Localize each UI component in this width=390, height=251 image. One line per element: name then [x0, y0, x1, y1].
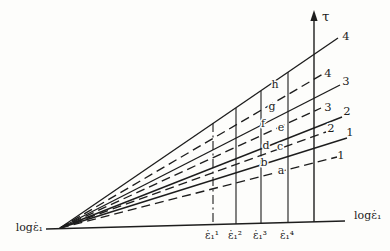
- x-axis: [46, 221, 345, 229]
- solid-line-1: [60, 138, 347, 228]
- dashed-line-1-label: 1: [337, 148, 344, 162]
- point-label-e: e: [278, 121, 285, 134]
- tau-axis-arrowhead-icon: [310, 10, 317, 21]
- solid-line-2-label: 2: [343, 104, 350, 118]
- diagram-canvas: ε̇₁¹ε̇₁²ε̇₁³ε̇₁⁴logε̇₁logε̇₁τ44332211hgf…: [0, 0, 390, 251]
- solid-line-1-label: 1: [346, 125, 353, 139]
- strain-rate-line-3-label: ε̇₁³: [253, 229, 267, 241]
- point-label-c: c: [277, 140, 283, 153]
- point-label-b: b: [260, 156, 267, 169]
- point-label-h: h: [271, 78, 278, 91]
- tau-axis-label: τ: [322, 8, 329, 24]
- solid-line-2: [60, 117, 342, 228]
- solid-line-3-label: 3: [342, 74, 349, 88]
- log-strain-rate-vs-tau-diagram: ε̇₁¹ε̇₁²ε̇₁³ε̇₁⁴logε̇₁logε̇₁τ44332211hgf…: [0, 0, 390, 251]
- point-label-d: d: [262, 139, 269, 152]
- point-label-g: g: [268, 100, 275, 113]
- dashed-line-3-label: 3: [324, 100, 331, 114]
- strain-rate-line-2-label: ε̇₁²: [228, 229, 242, 241]
- strain-rate-line-1-label: ε̇₁¹: [205, 229, 219, 241]
- dashed-line-4: [60, 74, 323, 228]
- solid-line-4-label: 4: [342, 29, 349, 43]
- strain-rate-line-4-label: ε̇₁⁴: [280, 229, 294, 241]
- dashed-line-4-label: 4: [324, 66, 331, 80]
- x-axis-label-right: logε̇₁: [354, 209, 381, 222]
- x-axis-label-left: logε̇₁: [16, 221, 43, 234]
- solid-line-3: [60, 85, 340, 228]
- point-label-a: a: [278, 164, 285, 177]
- dashed-line-2-label: 2: [327, 121, 334, 135]
- dashed-line-2: [60, 132, 326, 228]
- dashed-line-1: [60, 157, 337, 228]
- solid-line-4: [60, 38, 338, 228]
